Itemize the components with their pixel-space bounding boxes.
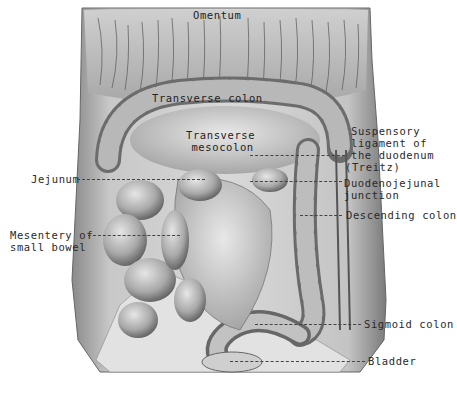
leader-descending-colon — [300, 215, 342, 216]
label-duodenojejunal-junction: Duodenojejunal junction — [344, 177, 441, 201]
leader-bladder — [230, 361, 365, 362]
leader-duodenojejunal — [250, 181, 342, 182]
leader-suspensory — [250, 155, 345, 156]
label-transverse-mesocolon-line1: Transverse — [186, 129, 255, 141]
label-descending-colon: Descending colon — [346, 209, 457, 221]
label-suspensory-line4: (Treitz) — [345, 161, 434, 173]
label-mesentery: Mesentery of small bowel — [10, 229, 93, 253]
leader-sigmoid-colon — [255, 324, 361, 325]
duodenojejunal-junction — [252, 168, 288, 192]
label-duodenojejunal-line1: Duodenojejunal — [344, 177, 441, 189]
label-suspensory-ligament: Suspensory ligament of the duodenum (Tre… — [351, 125, 434, 173]
label-duodenojejunal-line2: junction — [344, 189, 441, 201]
label-jejunum: Jejunum — [31, 173, 79, 185]
label-mesentery-line2: small bowel — [10, 241, 93, 253]
leader-jejunum — [77, 179, 205, 180]
label-mesentery-line1: Mesentery of — [10, 229, 93, 241]
bladder — [202, 352, 262, 372]
label-suspensory-line2: ligament of — [351, 137, 434, 149]
label-bladder: Bladder — [368, 355, 416, 367]
label-transverse-colon: Transverse colon — [152, 92, 263, 104]
label-transverse-mesocolon: Transverse mesocolon — [186, 129, 255, 153]
label-suspensory-line1: Suspensory — [351, 125, 434, 137]
label-omentum: Omentum — [193, 9, 241, 21]
label-sigmoid-colon: Sigmoid colon — [364, 318, 454, 330]
label-transverse-mesocolon-line2: mesocolon — [186, 141, 255, 153]
leader-mesentery — [88, 235, 180, 236]
label-suspensory-line3: the duodenum — [351, 149, 434, 161]
